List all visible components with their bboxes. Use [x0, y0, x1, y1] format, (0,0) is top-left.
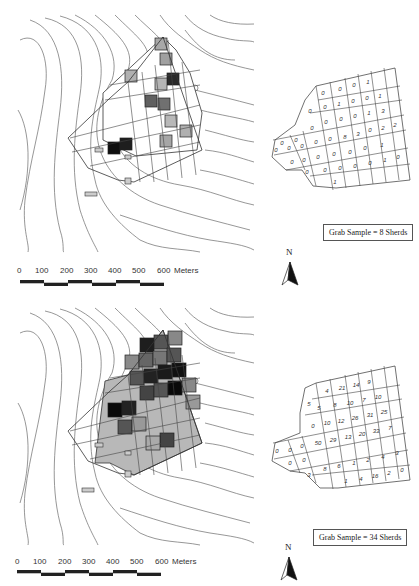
svg-text:20: 20 — [358, 431, 366, 437]
scale-tick-300: 300 — [82, 557, 95, 566]
scale-tick-300: 300 — [84, 266, 97, 275]
contour-map-top: 0 0 0 1 0 0 1 0 0 1 0 0 0 0 0 0 1 3 0 0 — [0, 0, 419, 293]
structure-marker — [125, 178, 131, 184]
north-arrow-top — [282, 262, 298, 285]
svg-text:31: 31 — [367, 412, 374, 418]
scale-tick-600: 600 — [157, 266, 170, 275]
svg-text:10: 10 — [347, 400, 354, 406]
structure-marker — [125, 155, 131, 159]
svg-text:1: 1 — [367, 110, 370, 116]
svg-text:1: 1 — [378, 93, 381, 99]
count-grid-bottom: 4 21 14 9 5 5 8 10 7 10 0 10 12 26 31 25… — [272, 366, 410, 489]
svg-text:2: 2 — [386, 470, 391, 476]
svg-text:1: 1 — [337, 101, 340, 107]
scale-tick-0: 0 — [15, 557, 19, 566]
svg-text:1: 1 — [333, 179, 336, 185]
scale-unit: Meters — [174, 266, 198, 275]
svg-text:50: 50 — [315, 440, 322, 446]
scale-tick-400: 400 — [106, 557, 119, 566]
legend-grab-sample: Grab Sample = 34 Sherds — [313, 529, 407, 546]
svg-text:1: 1 — [383, 157, 386, 163]
panel-grab-sample-8: 0 0 0 1 0 0 1 0 0 1 0 0 0 0 0 0 1 3 0 0 — [0, 0, 419, 293]
scale-bar-top — [20, 280, 164, 286]
svg-text:1: 1 — [366, 79, 369, 85]
svg-text:16: 16 — [372, 473, 379, 479]
structure-marker — [125, 471, 131, 477]
survey-grid-shaded — [68, 330, 202, 492]
structure-marker — [82, 488, 94, 492]
survey-grid-shaded — [68, 37, 202, 196]
svg-text:14: 14 — [353, 382, 360, 388]
scale-tick-0: 0 — [17, 266, 21, 275]
svg-text:33: 33 — [373, 428, 380, 434]
scale-unit: Meters — [172, 557, 196, 566]
north-label: N — [285, 542, 292, 552]
scale-tick-100: 100 — [33, 557, 46, 566]
legend-grab-sample: Grab Sample = 8 Sherds — [323, 224, 413, 241]
svg-text:2: 2 — [380, 125, 385, 131]
scale-tick-600: 600 — [155, 557, 168, 566]
scale-tick-200: 200 — [60, 266, 73, 275]
svg-text:13: 13 — [345, 434, 352, 440]
svg-text:1: 1 — [352, 460, 355, 466]
svg-text:29: 29 — [329, 437, 337, 443]
svg-text:10: 10 — [324, 420, 331, 426]
svg-text:10: 10 — [375, 394, 382, 400]
svg-text:1: 1 — [344, 478, 347, 484]
scale-tick-100: 100 — [35, 266, 48, 275]
svg-text:2: 2 — [392, 122, 397, 128]
svg-text:12: 12 — [338, 418, 345, 424]
svg-text:1: 1 — [380, 142, 383, 148]
svg-text:2: 2 — [365, 457, 370, 463]
scale-tick-500: 500 — [132, 266, 145, 275]
scale-tick-200: 200 — [58, 557, 71, 566]
structure-marker — [85, 192, 97, 196]
count-grid-top: 0 0 0 1 0 0 1 0 0 1 0 0 0 0 0 0 1 3 0 0 — [272, 68, 410, 190]
svg-text:25: 25 — [380, 409, 388, 415]
structure-marker — [95, 148, 103, 152]
structure-marker — [125, 451, 131, 455]
scale-tick-400: 400 — [108, 266, 121, 275]
panel-grab-sample-34: 4 21 14 9 5 5 8 10 7 10 0 10 12 26 31 25… — [0, 293, 419, 586]
structure-marker — [95, 443, 103, 447]
north-arrow-bottom — [281, 557, 297, 580]
north-label: N — [286, 247, 293, 257]
scale-tick-500: 500 — [130, 557, 143, 566]
svg-text:21: 21 — [338, 385, 346, 391]
scale-bar-bottom — [17, 570, 161, 576]
svg-text:26: 26 — [351, 415, 359, 421]
